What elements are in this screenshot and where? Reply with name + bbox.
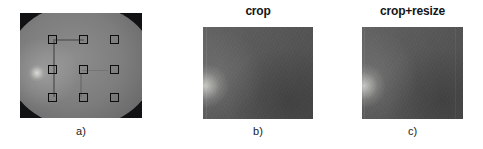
panel-b-caption: b) [203,125,313,137]
crop-patch-image [203,27,313,119]
crop-resize-patch-image [362,27,463,119]
patch-edge-line-right [455,27,456,119]
optic-disc-highlight [28,65,46,81]
patch-marker [48,65,57,74]
panel-b-title: crop [203,5,313,18]
panel-a: a) [20,13,142,149]
patch-edge-line [206,27,207,119]
patch-marker [79,35,88,44]
retina-tissue-texture [362,27,463,119]
panel-c: crop+resize c) [362,5,463,149]
figure-container: a) crop b) crop+resize c) [0,0,483,149]
retinal-fundus-image [20,13,142,118]
patch-marker [48,35,57,44]
patch-marker [110,65,119,74]
retina-tissue-texture [203,27,313,119]
patch-marker [79,93,88,102]
patch-marker [48,93,57,102]
patch-marker [79,65,88,74]
patch-marker [110,93,119,102]
patch-edge-line [364,27,365,119]
patch-marker [110,35,119,44]
panel-a-caption: a) [20,125,142,137]
panel-c-caption: c) [362,125,463,137]
panel-c-title: crop+resize [362,5,463,18]
panel-b: crop b) [203,5,313,149]
